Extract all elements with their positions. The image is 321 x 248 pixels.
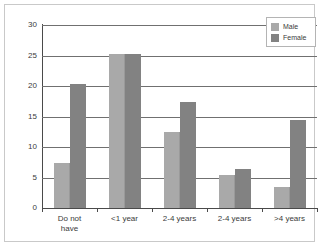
x-axis-label-line: 2-4 years	[204, 214, 266, 224]
x-axis-label: 2-4 years	[204, 214, 266, 224]
bar-group	[274, 25, 306, 208]
bar-female[interactable]	[235, 169, 251, 208]
legend-swatch-male-icon	[271, 23, 279, 31]
x-tick-mark	[207, 208, 208, 212]
x-axis-label: 2-4 years	[149, 214, 211, 224]
x-tick-mark	[97, 208, 98, 212]
x-axis-label-line: <1 year	[94, 214, 156, 224]
y-tick-label-15: 15	[15, 113, 37, 121]
x-tick-mark	[262, 208, 263, 212]
bar-male[interactable]	[164, 132, 180, 208]
x-axis-label: >4 years	[259, 214, 321, 224]
bar-female[interactable]	[70, 84, 86, 208]
y-tick-label-25: 25	[15, 52, 37, 60]
x-axis-label-line: have	[39, 224, 101, 234]
x-axis-label: Do nothave	[39, 214, 101, 234]
bar-male[interactable]	[109, 54, 125, 208]
bar-male[interactable]	[219, 175, 235, 208]
bar-group	[54, 25, 86, 208]
legend-label-female: Female	[283, 34, 306, 42]
bar-group	[164, 25, 196, 208]
x-tick-mark	[317, 208, 318, 212]
chart-frame: 051015202530 Do nothave<1 year2-4 years2…	[4, 4, 315, 242]
y-tick-label-30: 30	[15, 21, 37, 29]
bar-female[interactable]	[290, 120, 306, 208]
x-axis-label-line: 2-4 years	[149, 214, 211, 224]
x-tick-mark	[42, 208, 43, 212]
bar-male[interactable]	[274, 187, 290, 208]
x-axis-label-line: >4 years	[259, 214, 321, 224]
legend-item-male[interactable]: Male	[271, 21, 312, 32]
gridline-0	[42, 208, 317, 209]
x-axis-label: <1 year	[94, 214, 156, 224]
legend-swatch-female-icon	[271, 34, 279, 42]
bar-female[interactable]	[125, 54, 141, 208]
bar-group	[219, 25, 251, 208]
legend-label-male: Male	[283, 23, 298, 31]
plot-area	[42, 25, 317, 208]
y-tick-label-0: 0	[15, 204, 37, 212]
x-axis-label-line: Do not	[39, 214, 101, 224]
y-tick-label-10: 10	[15, 143, 37, 151]
x-tick-mark	[152, 208, 153, 212]
y-axis-labels: 051015202530	[11, 5, 37, 248]
bar-group	[109, 25, 141, 208]
bar-female[interactable]	[180, 102, 196, 208]
legend-item-female[interactable]: Female	[271, 32, 312, 43]
y-tick-label-20: 20	[15, 82, 37, 90]
y-tick-label-5: 5	[15, 174, 37, 182]
bar-male[interactable]	[54, 163, 70, 208]
chart-legend: Male Female	[266, 17, 316, 47]
